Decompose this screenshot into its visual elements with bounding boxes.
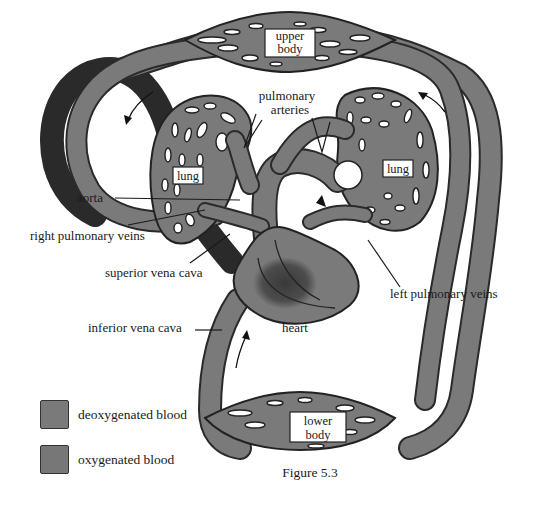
arrow-up-icon bbox=[242, 330, 250, 340]
inferior-vena-cava-label: inferior vena cava bbox=[88, 320, 182, 335]
aorta-label: aorta bbox=[77, 190, 103, 205]
left-pulmonary-veins-label: left pulmonary veins bbox=[390, 286, 498, 301]
deoxygenated-label: deoxygenated blood bbox=[78, 407, 187, 423]
heart-label: heart bbox=[282, 320, 308, 335]
left-lung-label: lung bbox=[177, 169, 200, 183]
superior-vena-cava-label: superior vena cava bbox=[105, 265, 203, 280]
circulation-diagram: upper body lower body lung bbox=[0, 0, 534, 507]
pulmonary-arteries-label-line1: pulmonary bbox=[259, 88, 316, 103]
lower-body-label-line2: body bbox=[306, 428, 332, 442]
pulmonary-arteries-label-line2: arteries bbox=[271, 102, 309, 117]
upper-body-label-line2: body bbox=[278, 42, 304, 56]
upper-body-capillary-bed: upper body bbox=[185, 12, 395, 72]
right-lung-label: lung bbox=[387, 162, 410, 176]
heart bbox=[234, 227, 359, 324]
deoxygenated-swatch bbox=[40, 400, 69, 429]
arrow-heart-inflow-icon bbox=[316, 195, 326, 207]
figure-caption: Figure 5.3 bbox=[0, 465, 534, 481]
right-pulmonary-veins-label: right pulmonary veins bbox=[30, 228, 145, 243]
arrow-down-left-icon bbox=[124, 115, 132, 125]
legend-item-deoxygenated: deoxygenated blood bbox=[40, 400, 260, 429]
left-pulmonary-veins-leader bbox=[368, 240, 400, 287]
lower-body-label-line1: lower bbox=[304, 414, 333, 428]
upper-body-label-line1: upper bbox=[276, 29, 305, 43]
